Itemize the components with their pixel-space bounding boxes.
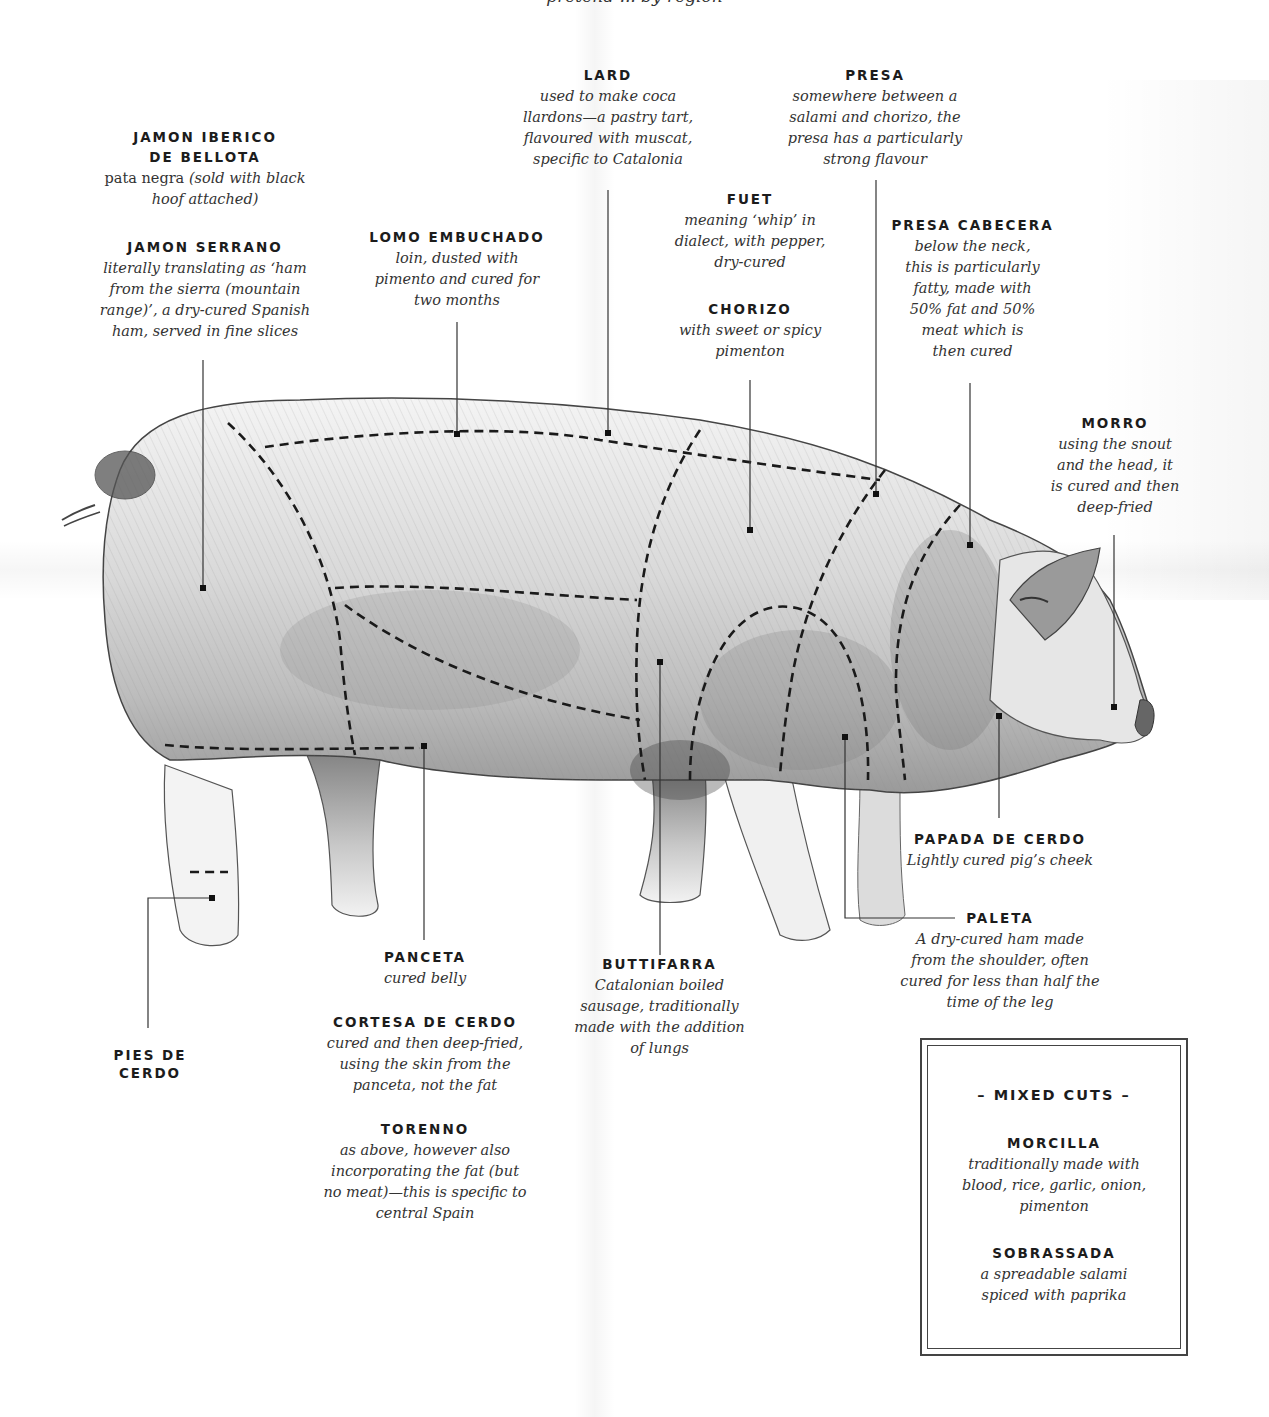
label-papada-de-cerdo: PAPADA DE CERDO Lightly cured pig’s chee… — [885, 830, 1115, 871]
label-cortesa-de-cerdo: CORTESA DE CERDO cured and then deep-fri… — [305, 1013, 545, 1096]
buttifarra-title: BUTTIFARRA — [552, 955, 767, 973]
presa-cabecera-title: PRESA CABECERA — [880, 216, 1065, 234]
lard-title: LARD — [503, 66, 713, 84]
label-jamon-serrano: JAMON SERRANO literally translating as ‘… — [85, 238, 325, 342]
cortesa-title: CORTESA DE CERDO — [305, 1013, 545, 1031]
mixed-cut-sobrassada: SOBRASSADA a spreadable salami spiced wi… — [928, 1244, 1180, 1306]
papada-desc: Lightly cured pig’s cheek — [885, 850, 1115, 871]
buttifarra-desc: Catalonian boiled sausage, traditionally… — [552, 975, 767, 1059]
morcilla-title: MORCILLA — [928, 1134, 1180, 1152]
presa-desc: somewhere between a salami and chorizo, … — [765, 86, 985, 170]
mixed-cuts-heading-wrap: – MIXED CUTS – — [928, 1086, 1180, 1106]
label-lomo-embuchado: LOMO EMBUCHADO loin, dusted with pimento… — [352, 228, 562, 311]
mixed-cuts-heading: – MIXED CUTS – — [928, 1086, 1180, 1104]
jamon-serrano-desc: literally translating as ‘ham from the s… — [85, 258, 325, 342]
label-presa-cabecera: PRESA CABECERA below the neck, this is p… — [880, 216, 1065, 362]
label-chorizo: CHORIZO with sweet or spicy pimenton — [650, 300, 850, 362]
label-pies-de-cerdo: PIES DE CERDO — [95, 1046, 205, 1084]
morcilla-desc: traditionally made with blood, rice, gar… — [928, 1154, 1180, 1217]
label-jamon-iberico: JAMON IBERICO DE BELLOTA pata negra (sol… — [95, 128, 315, 210]
fuet-title: FUET — [650, 190, 850, 208]
mixed-cuts-box-inner-border: – MIXED CUTS – MORCILLA traditionally ma… — [927, 1045, 1181, 1349]
panceta-desc: cured belly — [320, 968, 530, 989]
label-presa: PRESA somewhere between a salami and cho… — [765, 66, 985, 170]
label-buttifarra: BUTTIFARRA Catalonian boiled sausage, tr… — [552, 955, 767, 1059]
jamon-iberico-desc-upright: pata negra — [104, 170, 188, 186]
torenno-title: TORENNO — [305, 1120, 545, 1138]
lomo-desc: loin, dusted with pimento and cured for … — [352, 248, 562, 311]
torenno-desc: as above, however also incorporating the… — [305, 1140, 545, 1224]
papada-title: PAPADA DE CERDO — [885, 830, 1115, 848]
label-fuet: FUET meaning ‘whip’ in dialect, with pep… — [650, 190, 850, 273]
label-lard: LARD used to make coca llardons—a pastry… — [503, 66, 713, 170]
mixed-cut-morcilla: MORCILLA traditionally made with blood, … — [928, 1134, 1180, 1217]
lard-desc: used to make coca llardons—a pastry tart… — [503, 86, 713, 170]
label-torenno: TORENNO as above, however also incorpora… — [305, 1120, 545, 1224]
morro-desc: using the snout and the head, it is cure… — [1035, 434, 1195, 518]
sobrassada-title: SOBRASSADA — [928, 1244, 1180, 1262]
paleta-title: PALETA — [885, 909, 1115, 927]
jamon-iberico-title-2: DE BELLOTA — [95, 148, 315, 166]
label-panceta: PANCETA cured belly — [320, 948, 530, 989]
mixed-cuts-box: – MIXED CUTS – MORCILLA traditionally ma… — [920, 1038, 1188, 1356]
jamon-iberico-title-1: JAMON IBERICO — [95, 128, 315, 146]
panceta-title: PANCETA — [320, 948, 530, 966]
presa-cabecera-desc: below the neck, this is particularly fat… — [880, 236, 1065, 362]
presa-title: PRESA — [765, 66, 985, 84]
lomo-title: LOMO EMBUCHADO — [352, 228, 562, 246]
jamon-serrano-title: JAMON SERRANO — [85, 238, 325, 256]
sobrassada-desc: a spreadable salami spiced with paprika — [928, 1264, 1180, 1306]
chorizo-desc: with sweet or spicy pimenton — [650, 320, 850, 362]
cortesa-desc: cured and then deep-fried, using the ski… — [305, 1033, 545, 1096]
paleta-desc: A dry-cured ham made from the shoulder, … — [885, 929, 1115, 1013]
label-paleta: PALETA A dry-cured ham made from the sho… — [885, 909, 1115, 1013]
label-morro: MORRO using the snout and the head, it i… — [1035, 414, 1195, 518]
chorizo-title: CHORIZO — [650, 300, 850, 318]
pies-title: PIES DE CERDO — [95, 1046, 205, 1082]
fuet-desc: meaning ‘whip’ in dialect, with pepper, … — [650, 210, 850, 273]
morro-title: MORRO — [1035, 414, 1195, 432]
